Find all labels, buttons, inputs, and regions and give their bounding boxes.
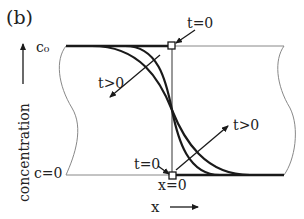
t0-top-marker [168, 42, 175, 49]
t0-bottom-label: t=0 [134, 156, 160, 172]
origin-label: x=0 [158, 177, 187, 193]
left-boundary [59, 46, 77, 175]
y-axis-label: concentration [16, 103, 32, 202]
c-zero-label: c=0 [34, 165, 62, 181]
panel-label: (b) [6, 6, 33, 28]
diffusion-diagram: (b) concentration c₀ c=0 t=0 t>0 t>0 t=0… [0, 0, 304, 219]
t0-top-label: t=0 [187, 15, 213, 31]
c0-label: c₀ [36, 39, 50, 55]
right-boundary [278, 46, 296, 175]
tpos-right-label: t>0 [233, 117, 259, 133]
t0-top-arrow-icon [176, 30, 195, 43]
x-axis-label: x [151, 198, 160, 216]
